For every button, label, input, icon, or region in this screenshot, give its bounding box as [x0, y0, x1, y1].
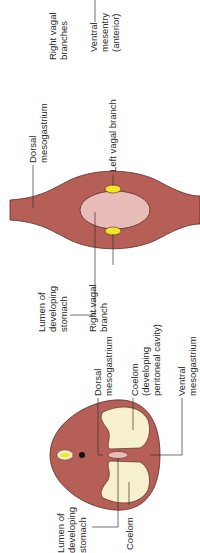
label-cs-coelom: Coelom: [124, 517, 135, 550]
coelom-lower: [101, 461, 149, 503]
aorta-dot: [79, 452, 85, 458]
label-cs-ventral-mesogastrium: Ventral mesogastrium: [176, 336, 198, 396]
left-vagal-nerve: [105, 185, 121, 193]
cross-section-illustration: [50, 400, 160, 510]
label-cs-dorsal-mesogastrium: Dorsal mesogastrium: [92, 336, 114, 396]
label-right-vagal-branches: Right vagal branches: [47, 12, 69, 60]
spinal-cord-center: [60, 453, 70, 457]
label-ventral-mesentry: Ventral mesentry (anterior): [88, 13, 121, 52]
label-left-vagal-branch: Left vagal branch: [107, 99, 118, 172]
label-cs-coelom-cavity: Coelom (developing peritoneal cavity): [129, 324, 162, 396]
label-dorsal-mesogastrium: Dorsal mesogastrium: [27, 103, 49, 163]
coelom-upper: [101, 407, 149, 449]
cross-section-lumen: [108, 452, 128, 459]
right-vagal-nerve: [105, 227, 121, 235]
anatomy-diagram: [0, 0, 200, 553]
label-lumen-developing-stomach: Lumen of developing stomach: [36, 286, 69, 332]
stomach-lumen: [80, 191, 150, 229]
mesentery-stomach-illustration: [10, 171, 200, 249]
label-right-vagal-branch: Right vagal branch: [87, 284, 109, 332]
label-cs-lumen: Lumen of developing stomach: [55, 507, 88, 553]
